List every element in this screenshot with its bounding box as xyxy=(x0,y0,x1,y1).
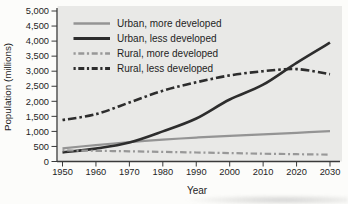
y-tick-label: 1,500 xyxy=(26,112,49,122)
x-tick-label: 1990 xyxy=(186,167,207,177)
x-tick-label: 1980 xyxy=(152,167,173,177)
y-tick-label: 2,500 xyxy=(26,81,49,91)
legend-label: Urban, less developed xyxy=(117,33,217,44)
x-tick-label: 1960 xyxy=(86,167,107,177)
legend-label: Rural, more developed xyxy=(117,48,218,59)
y-tick-label: 4,500 xyxy=(26,21,49,31)
x-axis-title: Year xyxy=(187,185,208,196)
y-axis: 05001,0001,5002,0002,5003,0003,5004,0004… xyxy=(26,6,57,167)
population-chart-canvas: 05001,0001,5002,0002,5003,0003,5004,0004… xyxy=(0,0,348,204)
y-tick-label: 3,500 xyxy=(26,51,49,61)
y-tick-label: 4,000 xyxy=(26,36,49,46)
x-tick-label: 2020 xyxy=(286,167,307,177)
population-trends-figure: 05001,0001,5002,0002,5003,0003,5004,0004… xyxy=(0,0,348,204)
x-tick-label: 2010 xyxy=(253,167,274,177)
y-axis-title: Population (millions) xyxy=(2,43,13,131)
x-tick-label: 1950 xyxy=(52,167,73,177)
x-tick-label: 2000 xyxy=(219,167,240,177)
x-tick-label: 1970 xyxy=(119,167,140,177)
y-tick-label: 5,000 xyxy=(26,6,49,16)
x-tick-label: 2030 xyxy=(320,167,341,177)
legend-label: Rural, less developed xyxy=(117,63,213,74)
y-tick-label: 2,000 xyxy=(26,97,49,107)
legend-label: Urban, more developed xyxy=(117,18,222,29)
y-tick-label: 0 xyxy=(44,157,49,167)
y-tick-label: 3,000 xyxy=(26,66,49,76)
x-axis: 195019601970198019902000201020202030 xyxy=(52,162,340,177)
y-tick-label: 500 xyxy=(33,142,49,152)
y-tick-label: 1,000 xyxy=(26,127,49,137)
